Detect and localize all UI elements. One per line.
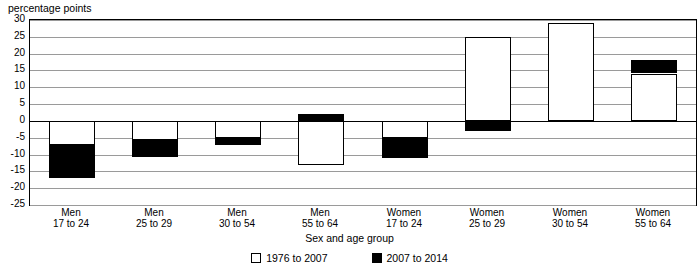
x-axis-category-sex: Men	[279, 207, 361, 218]
x-axis-title: Sex and age group	[0, 232, 699, 244]
x-axis-category-age: 30 to 54	[529, 218, 611, 229]
y-axis-tick-label: 15	[1, 64, 25, 74]
bar-group[interactable]	[631, 20, 677, 205]
white-square-icon	[251, 253, 261, 263]
gridline	[30, 20, 696, 21]
bar-group[interactable]	[49, 20, 95, 205]
bar-segment-1976-2007[interactable]	[49, 121, 95, 145]
gridline	[30, 54, 696, 55]
x-axis-category-age: 55 to 64	[612, 218, 694, 229]
y-axis-tick-label: -5	[1, 132, 25, 142]
bar-segment-2007-2014[interactable]	[382, 138, 428, 158]
legend-item[interactable]: 1976 to 2007	[251, 252, 327, 264]
bar-segment-1976-2007[interactable]	[631, 74, 677, 121]
y-axis-tick-label: -25	[1, 199, 25, 209]
x-axis-category-age: 30 to 54	[196, 218, 278, 229]
y-axis-tick-label: 20	[1, 48, 25, 58]
x-axis-category-label: Women17 to 24	[363, 207, 445, 229]
bar-segment-1976-2007[interactable]	[298, 121, 344, 165]
bar-segment-2007-2014[interactable]	[49, 144, 95, 178]
bar-segment-1976-2007[interactable]	[382, 121, 428, 138]
x-axis-category-label: Men55 to 64	[279, 207, 361, 229]
x-axis-category-label: Men17 to 24	[30, 207, 112, 229]
y-axis-tick-label: -15	[1, 165, 25, 175]
plot-area	[29, 19, 697, 206]
gridline	[30, 155, 696, 156]
x-axis-category-age: 17 to 24	[363, 218, 445, 229]
y-axis-tick-label: 5	[1, 98, 25, 108]
x-axis-category-label: Women30 to 54	[529, 207, 611, 229]
bar-segment-1976-2007[interactable]	[548, 23, 594, 121]
legend-item-label: 2007 to 2014	[387, 252, 448, 264]
bar-group[interactable]	[382, 20, 428, 205]
y-axis-tick-label: 30	[1, 14, 25, 24]
plot-inner	[30, 20, 696, 205]
bar-segment-1976-2007[interactable]	[215, 121, 261, 138]
gridline	[30, 205, 696, 206]
bar-group[interactable]	[465, 20, 511, 205]
bar-group[interactable]	[548, 20, 594, 205]
bar-segment-2007-2014[interactable]	[298, 114, 344, 121]
x-axis-category-sex: Men	[196, 207, 278, 218]
gridline	[30, 138, 696, 139]
x-axis-category-label: Women55 to 64	[612, 207, 694, 229]
gridline	[30, 70, 696, 71]
gridline	[30, 171, 696, 172]
bar-segment-2007-2014[interactable]	[132, 139, 178, 157]
gridline	[30, 104, 696, 105]
bar-group[interactable]	[132, 20, 178, 205]
x-axis-category-sex: Men	[113, 207, 195, 218]
y-axis-tick-label: 10	[1, 81, 25, 91]
x-axis-category-sex: Women	[529, 207, 611, 218]
bar-group[interactable]	[215, 20, 261, 205]
legend-item-label: 1976 to 2007	[266, 252, 327, 264]
gridline	[30, 87, 696, 88]
y-axis-tick-label: 0	[1, 115, 25, 125]
x-axis-category-label: Men25 to 29	[113, 207, 195, 229]
x-axis-category-label: Men30 to 54	[196, 207, 278, 229]
bar-segment-2007-2014[interactable]	[215, 138, 261, 145]
x-axis-category-sex: Women	[612, 207, 694, 218]
x-axis-category-label: Women25 to 29	[446, 207, 528, 229]
legend-item[interactable]: 2007 to 2014	[372, 252, 448, 264]
bar-segment-1976-2007[interactable]	[465, 37, 511, 121]
x-axis-category-sex: Women	[363, 207, 445, 218]
x-axis-category-age: 55 to 64	[279, 218, 361, 229]
zero-axis-line	[30, 121, 696, 122]
y-axis-tick-label: 25	[1, 31, 25, 41]
x-axis-category-age: 25 to 29	[446, 218, 528, 229]
x-axis-category-age: 17 to 24	[30, 218, 112, 229]
x-axis-category-sex: Men	[30, 207, 112, 218]
bar-segment-2007-2014[interactable]	[465, 121, 511, 131]
bar-segment-2007-2014[interactable]	[631, 60, 677, 73]
gridline	[30, 188, 696, 189]
gridline	[30, 37, 696, 38]
chart-legend: 1976 to 20072007 to 2014	[0, 252, 699, 264]
bar-segment-1976-2007[interactable]	[132, 121, 178, 140]
y-axis-tick-label: -10	[1, 149, 25, 159]
black-square-icon	[372, 253, 382, 263]
x-axis-category-sex: Women	[446, 207, 528, 218]
chart-page: percentage points Sex and age group 1976…	[0, 0, 699, 272]
bar-group[interactable]	[298, 20, 344, 205]
x-axis-category-age: 25 to 29	[113, 218, 195, 229]
y-axis-tick-label: -20	[1, 182, 25, 192]
